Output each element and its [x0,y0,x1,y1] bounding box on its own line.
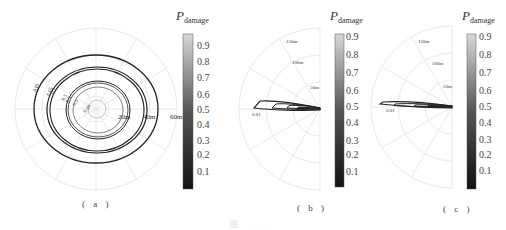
colorbar-b-title: Pdamage [330,8,363,25]
colorbar-tick: 0.8 [346,49,359,60]
radial-tick-150m: 150m [286,39,298,44]
colorbar-tick: 0.1 [479,165,492,176]
colorbar-tick: 0.5 [479,101,492,112]
colorbar-tick: 0.4 [479,117,492,128]
panel-c-polar-plot: 0.01 50m 100m 150m [371,26,476,189]
radial-tick-40m: 40m [143,113,156,121]
panel-a-polar-plot: 0.01 0.05 0.1 0.3 0.5 0.9 0.99 20m 40m 6… [15,28,193,190]
colorbar-tick: 0.2 [479,149,492,160]
colorbar-tick: 0.3 [346,135,359,146]
panel-a-grid [15,28,177,190]
colorbar-tick: 0.9 [479,31,492,42]
colorbar-label-symbol: P [330,8,338,23]
colorbar-tick: 0.1 [346,166,359,177]
figure-canvas: 0.01 0.05 0.1 0.3 0.5 0.9 0.99 20m 40m 6… [0,0,506,230]
radial-tick-20m: 20m [118,113,131,121]
radial-tick-50m: 50m [310,85,319,90]
panel-b-colorbar [335,34,344,187]
colorbar-a-title: Pdamage [176,8,209,25]
figure-caption: 图 ... [0,218,506,229]
colorbar-tick: 0.3 [479,134,492,145]
colorbar-tick: 0.5 [197,104,210,115]
colorbar-tick: 0.9 [197,40,210,51]
colorbar-tick: 0.7 [346,67,359,78]
colorbar-tick: 0.8 [197,56,210,67]
colorbar-c-title: Pdamage [462,8,495,25]
colorbar-tick: 0.2 [197,149,210,160]
colorbar-label-subscript: damage [338,16,363,25]
colorbar-tick: 0.3 [197,135,210,146]
colorbar-tick: 0.4 [197,119,210,130]
colorbar-tick: 0.6 [479,85,492,96]
colorbar-tick: 0.6 [197,89,210,100]
radial-tick-100m: 100m [292,60,304,65]
radial-tick-60m: 60m [170,113,183,121]
colorbar-tick: 0.7 [197,72,210,83]
colorbar-label-subscript: damage [470,16,495,25]
colorbar-tick: 0.1 [197,166,210,177]
panel-b-polar-plot: 0.01 50m 100m 150m [239,28,344,190]
panel-label-a: ( a ) [82,199,112,209]
contour-label-0.01: 0.01 [386,108,395,113]
colorbar-tick: 0.5 [346,101,359,112]
colorbar-tick: 0.4 [346,117,359,128]
radial-tick-100m: 100m [432,61,444,66]
colorbar-tick: 0.8 [479,49,492,60]
radial-tick-150m: 150m [418,39,430,44]
colorbar-label-symbol: P [462,8,470,23]
contour-label-0.01: 0.01 [252,112,261,117]
panel-a-colorbar [183,34,193,189]
contour-label-0.9: 0.9 [72,98,80,106]
radial-tick-50m: 50m [443,84,452,89]
colorbar-label-subscript: damage [184,16,209,25]
panel-c-colorbar [467,34,476,189]
colorbar-tick: 0.6 [346,85,359,96]
colorbar-tick: 0.7 [479,67,492,78]
panel-label-c: ( c ) [443,204,473,214]
colorbar-tick: 0.2 [346,149,359,160]
colorbar-tick: 0.9 [346,31,359,42]
panel-a-radial-ticks: 20m 40m 60m [118,113,183,121]
panel-b-contours [254,101,320,111]
panel-label-b: ( b ) [297,203,327,213]
colorbar-label-symbol: P [176,8,184,23]
